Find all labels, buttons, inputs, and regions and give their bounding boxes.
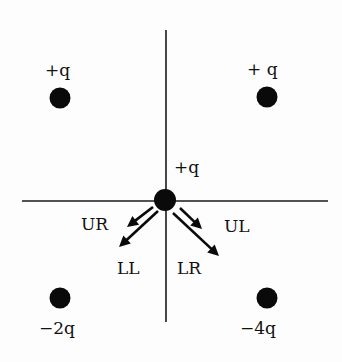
arrow-label-UL: UL [224,216,250,236]
charge-label-top-right: + q [247,59,278,79]
charge-top-right [257,87,278,108]
charge-top-left [50,88,71,109]
charge-label-bottom-left: −2q [39,318,75,338]
charge-center [154,189,176,211]
force-arrow-LL [119,211,158,247]
charge-bottom-right [257,288,278,309]
force-arrow-UL [180,208,202,229]
arrow-label-LR: LR [177,258,202,278]
arrow-label-LL: LL [117,258,140,278]
charge-label-top-left: +q [45,60,70,80]
charge-label-bottom-right: −4q [240,318,276,338]
charge-diagram: +q + q +q −2q −4q UR LL UL LR [0,0,342,362]
charge-bottom-left [50,288,71,309]
arrow-label-UR: UR [81,214,109,234]
charge-label-center: +q [174,157,199,177]
force-arrow-UR [127,207,153,227]
